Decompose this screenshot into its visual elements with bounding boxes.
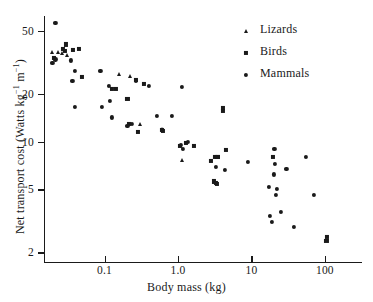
data-point-birds	[325, 235, 329, 239]
data-point-mammals	[100, 105, 104, 109]
data-point-lizards	[138, 122, 142, 126]
data-point-mammals	[292, 225, 296, 229]
data-point-mammals	[185, 140, 189, 144]
data-point-mammals	[279, 210, 283, 214]
data-point-mammals	[272, 147, 276, 151]
data-point-mammals	[304, 155, 308, 159]
legend-label: Lizards	[260, 22, 297, 37]
y-axis-line	[44, 16, 45, 262]
data-point-birds	[64, 42, 68, 46]
x-axis-tick-label: 1.0	[170, 264, 185, 276]
x-axis-tick-label: 100	[316, 264, 334, 276]
data-point-mammals	[70, 79, 74, 83]
data-point-mammals	[284, 167, 288, 171]
data-point-mammals	[53, 21, 57, 25]
data-point-mammals	[53, 57, 57, 61]
data-point-lizards	[117, 72, 121, 76]
y-axis-title: Net transport cost (Watts kg−1 m−1)	[13, 32, 28, 262]
data-point-lizards	[65, 53, 69, 57]
data-point-birds	[161, 129, 165, 133]
data-point-mammals	[181, 147, 185, 151]
data-point-mammals	[98, 69, 102, 73]
y-axis-tick	[38, 189, 44, 190]
data-point-birds	[80, 75, 84, 79]
data-point-mammals	[246, 160, 250, 164]
data-point-mammals	[267, 184, 271, 188]
data-point-mammals	[130, 121, 134, 125]
data-point-mammals	[273, 162, 277, 166]
data-point-birds	[136, 130, 140, 134]
triangle-marker-icon	[244, 29, 248, 33]
data-point-birds	[71, 48, 75, 52]
legend-label: Birds	[260, 44, 287, 59]
data-point-mammals	[270, 220, 274, 224]
data-point-birds	[215, 182, 219, 186]
y-axis-tick	[38, 252, 44, 253]
x-axis-tick-label: 0.1	[97, 264, 112, 276]
data-point-lizards	[128, 74, 132, 78]
data-point-birds	[125, 97, 129, 101]
data-point-mammals	[125, 124, 129, 128]
data-point-mammals	[147, 84, 151, 88]
data-point-birds	[142, 82, 146, 86]
data-point-birds	[192, 144, 196, 148]
data-point-mammals	[214, 165, 218, 169]
x-axis-line	[44, 262, 362, 263]
data-point-mammals	[271, 172, 275, 176]
data-point-mammals	[223, 168, 227, 172]
data-point-mammals	[155, 113, 159, 117]
y-axis-tick	[38, 142, 44, 143]
circle-marker-icon	[244, 73, 248, 77]
x-axis-tick	[105, 256, 106, 262]
x-axis-title: Body mass (kg)	[0, 280, 373, 295]
data-point-birds	[110, 87, 114, 91]
y-axis-tick	[38, 94, 44, 95]
legend-label: Mammals	[260, 66, 309, 81]
data-point-mammals	[110, 115, 114, 119]
chart-figure: 502010520.11.010100 Body mass (kg) Net t…	[0, 0, 373, 302]
square-marker-icon	[244, 51, 248, 55]
data-point-birds	[216, 155, 220, 159]
x-axis-tick	[178, 256, 179, 262]
data-point-birds	[114, 87, 118, 91]
x-axis-tick-label: 10	[245, 264, 257, 276]
data-point-lizards	[50, 50, 54, 54]
data-point-birds	[209, 159, 213, 163]
data-point-birds	[221, 106, 225, 110]
data-point-birds	[77, 47, 81, 51]
x-axis-tick	[251, 256, 252, 262]
data-point-mammals	[274, 187, 278, 191]
data-point-mammals	[68, 58, 72, 62]
y-axis-tick	[38, 31, 44, 32]
data-point-birds	[324, 239, 328, 243]
data-point-mammals	[180, 85, 184, 89]
data-point-lizards	[180, 158, 184, 162]
data-point-birds	[224, 148, 228, 152]
data-point-mammals	[274, 193, 278, 197]
data-point-birds	[271, 155, 275, 159]
data-point-mammals	[170, 114, 174, 118]
data-point-mammals	[268, 214, 272, 218]
data-point-mammals	[108, 99, 112, 103]
x-axis-tick	[325, 256, 326, 262]
data-point-birds	[63, 49, 67, 53]
data-point-mammals	[73, 69, 77, 73]
data-point-mammals	[311, 193, 315, 197]
data-point-mammals	[73, 105, 77, 109]
data-point-mammals	[134, 79, 138, 83]
